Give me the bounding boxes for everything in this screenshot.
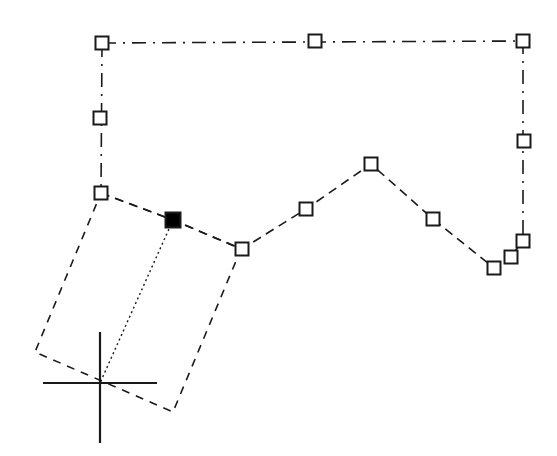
grip-hot-selected[interactable]	[166, 213, 181, 228]
grip-bottom-right-outer[interactable]	[488, 262, 501, 275]
rotated-rectangle[interactable]	[35, 193, 241, 412]
grip-descent-mid[interactable]	[427, 213, 440, 226]
grip-right-mid[interactable]	[518, 135, 531, 148]
grip-left-lower[interactable]	[95, 187, 108, 200]
grip-valley-mid[interactable]	[236, 243, 249, 256]
grip-top-left-corner[interactable]	[96, 37, 109, 50]
grip-right-lower[interactable]	[517, 235, 530, 248]
rectangle-diagonal[interactable]	[100, 220, 173, 383]
grip-rise-mid[interactable]	[300, 203, 313, 216]
cad-viewport[interactable]	[0, 0, 557, 456]
drawing-canvas[interactable]	[0, 0, 557, 456]
grip-top-right-corner[interactable]	[517, 35, 530, 48]
grip-peak[interactable]	[365, 158, 378, 171]
grip-layer[interactable]	[94, 35, 531, 275]
ucs-icon-layer	[43, 332, 157, 443]
entity-layer	[35, 41, 523, 412]
grip-top-mid[interactable]	[309, 35, 322, 48]
grip-left-mid[interactable]	[94, 112, 107, 125]
grip-bottom-right-inner[interactable]	[505, 251, 518, 264]
